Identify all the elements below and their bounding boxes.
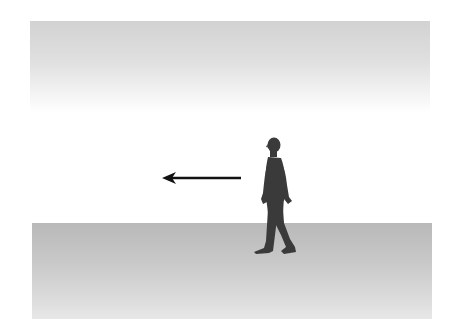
diagram-scene — [0, 0, 455, 334]
left-arrow-icon — [160, 168, 244, 188]
walking-person-icon — [248, 135, 304, 259]
upper-gradient-band — [30, 21, 430, 113]
ground-plane — [32, 223, 432, 319]
